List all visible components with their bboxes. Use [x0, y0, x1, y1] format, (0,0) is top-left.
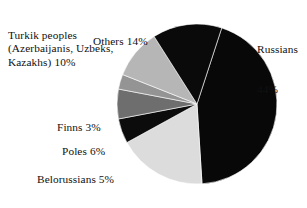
slice-label-belorussians-text: Belorussians 5% — [37, 173, 114, 186]
slice-label-turkik-line3: Kazakhs) 10% — [8, 56, 136, 69]
slice-label-russians-name: Russians — [257, 43, 298, 56]
slice-label-russians-value: 44% — [257, 83, 298, 96]
slice-label-russians: Russians 44% — [257, 16, 298, 123]
slice-label-turkik-peoples: Turkik peoples (Azerbaijanis, Uzbeks, Ka… — [8, 29, 136, 69]
pie-chart: Others 14% Russians 44% Turkik peoples (… — [0, 0, 307, 208]
slice-label-turkik-line2: (Azerbaijanis, Uzbeks, — [8, 42, 136, 55]
slice-label-turkik-line1: Turkik peoples — [8, 29, 136, 42]
slice-label-ukranians: Ukranians 18% — [80, 186, 151, 208]
